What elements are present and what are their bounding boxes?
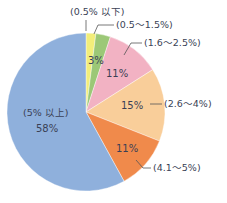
label-0-5-or-below: (0.5% 以下) <box>70 7 125 17</box>
pct-2-6-to-4: 15% <box>121 101 143 111</box>
pct-1-6-to-2-5: 11% <box>106 69 128 79</box>
pct-0-5-to-1-5: 3% <box>88 56 104 66</box>
label-2-6-to-4: (2.6～4%) <box>164 99 212 109</box>
label-4-1-to-5: (4.1～5%) <box>153 163 201 173</box>
pct-5-or-above: 58% <box>36 124 58 134</box>
label-5-or-above: (5% 以上) <box>23 108 69 118</box>
leader-line-0-5-1-5 <box>94 25 114 34</box>
label-1-6-to-2-5: (1.6～2.5%) <box>144 38 201 48</box>
pct-4-1-to-5: 11% <box>116 144 138 154</box>
label-0-5-to-1-5: (0.5～1.5%) <box>116 20 173 30</box>
